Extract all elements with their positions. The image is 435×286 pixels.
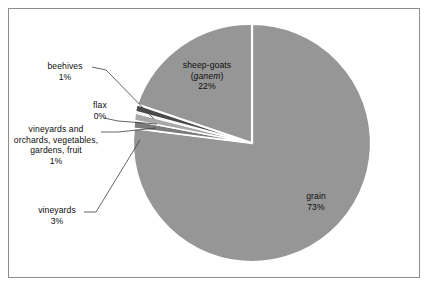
pie-chart-figure: beehives 1% flax 0% vineyards and orchar… bbox=[0, 0, 435, 286]
label-sheep-goats-name: sheep-goats bbox=[167, 60, 247, 71]
label-vineyards-and-orchards-percent: 1% bbox=[10, 156, 102, 167]
label-vineyards-percent: 3% bbox=[26, 216, 88, 227]
label-sheep-goats: sheep-goats (ganem) 22% bbox=[167, 60, 247, 92]
label-grain-name: grain bbox=[292, 191, 340, 202]
label-grain-percent: 73% bbox=[292, 202, 340, 213]
label-beehives-percent: 1% bbox=[36, 72, 94, 83]
label-sheep-goats-ganem: (ganem) bbox=[167, 71, 247, 82]
label-beehives-name: beehives bbox=[36, 61, 94, 72]
label-grain: grain 73% bbox=[292, 191, 340, 212]
label-flax-percent: 0% bbox=[78, 111, 122, 122]
label-vineyards-and-orchards: vineyards and orchards, vegetables, gard… bbox=[10, 124, 102, 166]
paren-close: ) bbox=[220, 71, 223, 81]
label-vineyards-and-orchards-name: vineyards and orchards, vegetables, gard… bbox=[10, 124, 102, 156]
label-flax-name: flax bbox=[78, 100, 122, 111]
label-vineyards-name: vineyards bbox=[26, 205, 88, 216]
label-sheep-goats-percent: 22% bbox=[167, 81, 247, 92]
label-flax: flax 0% bbox=[78, 100, 122, 121]
label-beehives: beehives 1% bbox=[36, 61, 94, 82]
label-vineyards: vineyards 3% bbox=[26, 205, 88, 226]
label-ganem-italic: ganem bbox=[194, 71, 221, 81]
